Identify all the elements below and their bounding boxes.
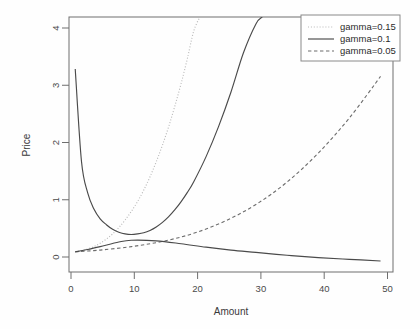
legend-label-gamma-01: gamma=0.1: [340, 33, 390, 44]
chart-figure: 0 1 2 3 4 Price 0 10 20 30 40 50 Amount: [0, 0, 420, 329]
x-ticklabel-30: 30: [256, 283, 267, 294]
x-ticklabel-40: 40: [319, 283, 330, 294]
legend-label-gamma-015: gamma=0.15: [340, 21, 396, 32]
y-axis: 0 1 2 3 4: [50, 25, 69, 259]
price-vs-amount-chart: 0 1 2 3 4 Price 0 10 20 30 40 50 Amount: [0, 0, 420, 329]
y-ticklabel-3: 3: [50, 83, 61, 88]
curve-gamma-015: [75, 17, 200, 252]
y-ticklabel-0: 0: [50, 254, 61, 259]
legend-label-gamma-005: gamma=0.05: [340, 45, 396, 56]
curve-gamma-01: [75, 17, 262, 235]
y-ticklabel-1: 1: [50, 197, 61, 202]
chart-legend: gamma=0.15 gamma=0.1 gamma=0.05: [301, 15, 400, 61]
x-ticklabel-20: 20: [192, 283, 203, 294]
x-ticklabel-0: 0: [68, 283, 73, 294]
x-axis: 0 10 20 30 40 50: [68, 272, 392, 294]
y-ticklabel-2: 2: [50, 140, 61, 145]
curve-gamma-01-decay: [75, 240, 380, 261]
x-ticklabel-50: 50: [382, 283, 393, 294]
y-axis-title: Price: [21, 133, 32, 156]
x-ticklabel-10: 10: [129, 283, 140, 294]
y-ticklabel-4: 4: [50, 25, 61, 30]
x-axis-title: Amount: [214, 306, 249, 317]
